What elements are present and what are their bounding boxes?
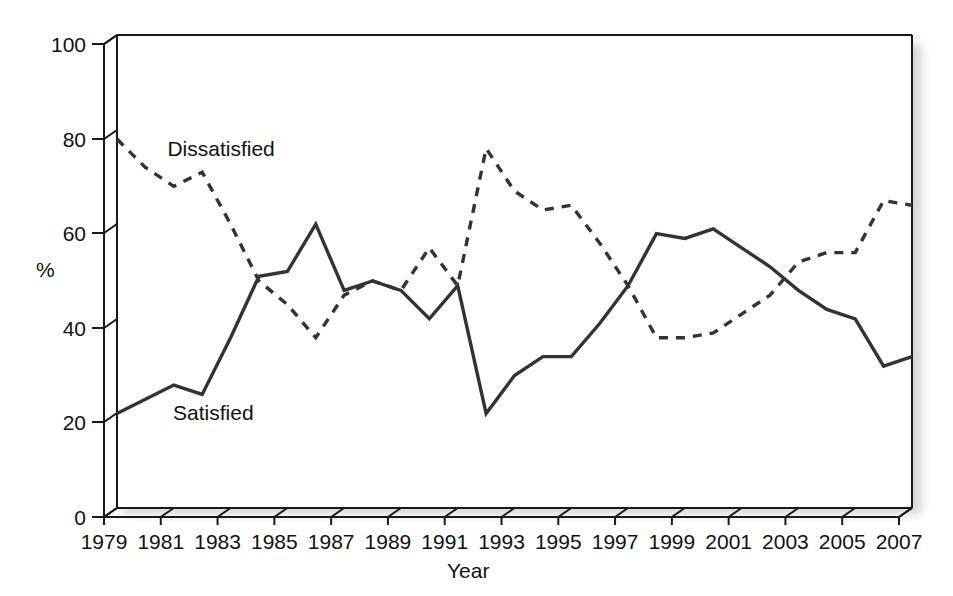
chart-figure: 0 20 40 60 80 100 % 19791981198319851987… (0, 0, 953, 596)
y-tick-label: 100 (51, 33, 86, 56)
x-tick-label: 2005 (819, 530, 866, 553)
y-tick-label: 40 (63, 317, 86, 340)
y-axis-title: % (36, 258, 55, 281)
x-tick-label: 1991 (421, 530, 468, 553)
x-tick-label: 1989 (365, 530, 412, 553)
x-tick-label: 1979 (81, 530, 128, 553)
x-tick-label: 1997 (592, 530, 639, 553)
y-axis-wall (104, 35, 117, 517)
y-tick-label: 0 (74, 506, 86, 529)
x-tick-label: 2001 (705, 530, 752, 553)
x-tick-label: 1995 (535, 530, 582, 553)
y-tick-label: 80 (63, 128, 86, 151)
x-axis-title: Year (447, 559, 489, 582)
x-tick-label: 1981 (137, 530, 184, 553)
x-tick-label: 2003 (762, 530, 809, 553)
plot-area-background (117, 35, 912, 508)
y-axis-tick-labels: 0 20 40 60 80 100 (51, 33, 86, 529)
x-tick-label: 1983 (194, 530, 241, 553)
y-tick-label: 60 (63, 222, 86, 245)
line-chart: 0 20 40 60 80 100 % 19791981198319851987… (0, 0, 953, 596)
x-axis-tick-labels: 1979198119831985198719891991199319951997… (81, 530, 923, 553)
y-tick-label: 20 (63, 411, 86, 434)
x-tick-label: 1993 (478, 530, 525, 553)
x-tick-label: 1985 (251, 530, 298, 553)
x-tick-label: 1987 (308, 530, 355, 553)
series-annotation-satisfied: Satisfied (173, 401, 254, 424)
x-tick-label: 2007 (876, 530, 923, 553)
x-tick-label: 1999 (648, 530, 695, 553)
series-annotation-dissatisfied: Dissatisfied (167, 137, 274, 160)
